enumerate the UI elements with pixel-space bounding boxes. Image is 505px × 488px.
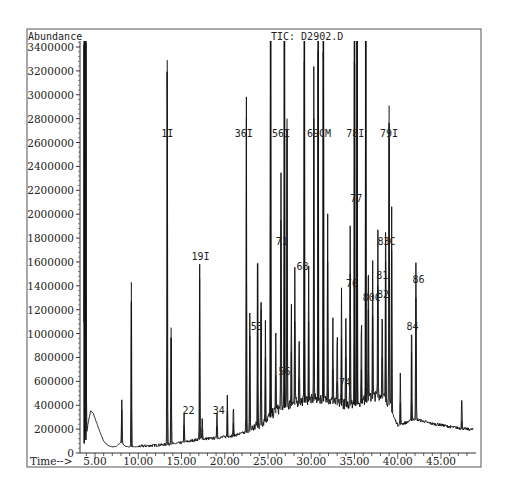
x-tick-label: 40.00 [383, 455, 413, 467]
peak-label: 77 [350, 193, 362, 204]
x-tick-label: 15.00 [166, 455, 196, 467]
peak-label: 22 [182, 405, 194, 416]
peak-label: 86 [412, 274, 424, 285]
x-axis-label: Time--> [30, 455, 72, 467]
peak-label: 71 [276, 236, 288, 247]
y-tick-label: 2600000 [27, 137, 74, 149]
x-tick-label: 20.00 [210, 455, 240, 467]
x-tick-label: 35.00 [339, 455, 369, 467]
peak-label: 76 [346, 278, 358, 289]
plot-frame [27, 29, 481, 467]
peak-label: 36I [235, 128, 253, 139]
y-tick-label: 400000 [34, 399, 74, 411]
x-tick-label: 5.00 [83, 455, 106, 467]
peak-label: 34 [213, 405, 225, 416]
peak-label: 81 [376, 270, 388, 281]
y-tick-label: 1000000 [27, 328, 74, 340]
y-tick-label: 3400000 [27, 41, 74, 53]
y-tick-label: 1800000 [27, 232, 74, 244]
peak-label: 83C [377, 236, 395, 247]
peak-label: 84 [406, 321, 418, 332]
peak-label: 78I [346, 128, 364, 139]
y-tick-label: 3200000 [27, 65, 74, 77]
y-tick-label: 200000 [34, 423, 74, 435]
peak-label: 68 [297, 261, 309, 272]
x-tick-label: 45.00 [426, 455, 456, 467]
chromatogram-chart: Abundance TIC: D2902.D Time--> 020000040… [0, 0, 505, 488]
y-tick-label: 1400000 [27, 280, 74, 292]
x-tick-label: 30.00 [296, 455, 326, 467]
x-tick-label: 10.00 [123, 455, 153, 467]
y-tick-label: 2000000 [27, 208, 74, 220]
y-tick-label: 2800000 [27, 113, 74, 125]
y-tick-label: 2400000 [27, 160, 74, 172]
peak-label: 82 [377, 289, 389, 300]
peak-label: 56 [278, 366, 290, 377]
y-tick-label: 2200000 [27, 184, 74, 196]
y-tick-label: 3000000 [27, 89, 74, 101]
y-tick-label: 1200000 [27, 304, 74, 316]
x-axis-ticks: 5.0010.0015.0020.0025.0030.0035.0040.004… [83, 453, 467, 467]
peak-label: 19I [191, 251, 209, 262]
peak-label: 69CM [307, 128, 331, 139]
peak-label: 1I [161, 128, 173, 139]
peak-label: 74 [339, 377, 351, 388]
x-tick-label: 25.00 [253, 455, 283, 467]
y-tick-label: 1600000 [27, 256, 74, 268]
y-tick-label: 0 [67, 447, 74, 459]
chart-title: TIC: D2902.D [271, 31, 343, 42]
peak-label: 53 [251, 321, 263, 332]
peak-label: 79I [380, 128, 398, 139]
peak-label: 56I [272, 128, 290, 139]
y-axis-ticks: 0200000400000600000800000100000012000001… [27, 41, 80, 459]
y-tick-label: 600000 [34, 375, 74, 387]
y-tick-label: 800000 [34, 351, 74, 363]
